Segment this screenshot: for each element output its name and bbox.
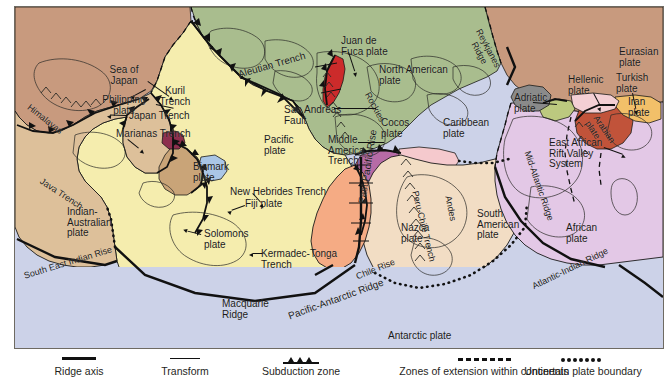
legend-label-subduction-zone: Subduction zone — [236, 365, 366, 377]
legend-item-uncertain-boundary: Uncertain plate boundary — [498, 352, 668, 377]
map-legend: Ridge axis Transform Subduction zone — [0, 352, 670, 390]
subduction-zone-symbol-icon — [236, 352, 366, 364]
uncertain-boundary-symbol-icon — [498, 352, 668, 364]
plate-antarctic — [15, 267, 663, 348]
plate-turkish — [571, 93, 619, 113]
legend-label-ridge-axis: Ridge axis — [24, 365, 134, 377]
tectonic-plate-map-figure: Sea of Japan Philipping plate Himalayas … — [0, 0, 670, 390]
legend-label-uncertain-boundary: Uncertain plate boundary — [498, 365, 668, 377]
map-vector-layer — [15, 7, 663, 348]
legend-item-ridge-axis: Ridge axis — [24, 352, 134, 377]
map-canvas: Sea of Japan Philipping plate Himalayas … — [14, 6, 664, 349]
legend-label-transform: Transform — [130, 365, 240, 377]
legend-item-subduction-zone: Subduction zone — [236, 352, 366, 377]
legend-item-transform: Transform — [130, 352, 240, 377]
ridge-axis-symbol-icon — [24, 352, 134, 364]
transform-symbol-icon — [130, 352, 240, 364]
